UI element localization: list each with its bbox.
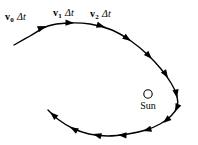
- orbit-figure: v0Δt v1Δt v2Δt Sun: [0, 0, 198, 145]
- orbit-arrowhead: [142, 126, 152, 134]
- orbit-arrowhead: [68, 124, 78, 134]
- orbit-arrowhead: [118, 132, 127, 138]
- orbit-arrowhead: [172, 103, 181, 113]
- arrowhead-group: [37, 20, 181, 140]
- delta-t-v1: Δt: [65, 7, 74, 18]
- orbit-arrowhead: [96, 22, 106, 30]
- delta-t-v0: Δt: [17, 11, 26, 22]
- orbit-svg: [0, 0, 198, 145]
- orbit-arrowhead: [172, 89, 180, 98]
- sun-label: Sun: [133, 101, 163, 111]
- orbit-path: [14, 23, 178, 136]
- delta-t-v2: Δt: [102, 8, 111, 19]
- velocity-label-v2: v2Δt: [90, 9, 111, 21]
- sun-marker-icon: [144, 90, 152, 98]
- orbit-path-group: [14, 23, 178, 136]
- velocity-label-v1: v1Δt: [53, 8, 74, 20]
- velocity-subscript-v0: 0: [10, 16, 14, 24]
- velocity-subscript-v2: 2: [95, 13, 99, 21]
- velocity-label-v0: v0Δt: [5, 12, 26, 24]
- velocity-subscript-v1: 1: [58, 12, 62, 20]
- orbit-arrowhead: [122, 34, 133, 44]
- orbit-arrowhead: [65, 20, 74, 26]
